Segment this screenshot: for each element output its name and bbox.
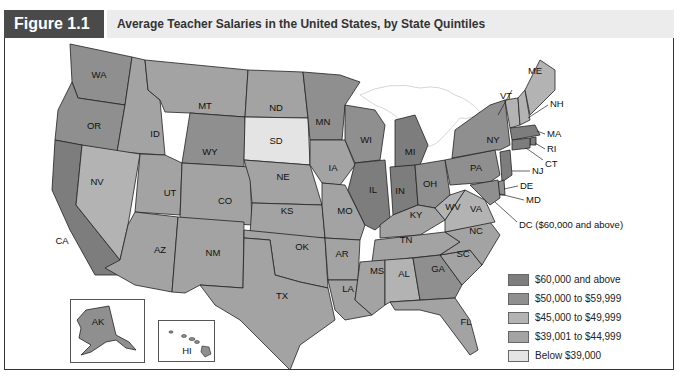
label-ME: ME <box>528 65 542 76</box>
state-NE <box>244 160 322 205</box>
legend: $60,000 and above $50,000 to $59,999 $45… <box>508 270 621 365</box>
state-AK <box>77 306 136 355</box>
label-IA: IA <box>329 162 339 173</box>
legend-label: $39,001 to $44,999 <box>535 331 621 342</box>
label-MA: MA <box>547 128 562 139</box>
label-IN: IN <box>395 185 405 196</box>
label-WA: WA <box>92 69 108 80</box>
callout-line-de <box>504 186 518 189</box>
label-AZ: AZ <box>154 244 166 255</box>
island <box>182 335 187 338</box>
state-NJ <box>500 150 512 182</box>
legend-item: $39,001 to $44,999 <box>508 327 621 346</box>
state-RI <box>530 137 536 145</box>
label-NY: NY <box>486 134 500 145</box>
label-DC: DC ($60,000 and above) <box>519 219 623 230</box>
label-ND: ND <box>269 102 283 113</box>
state-UT <box>135 154 182 215</box>
label-OK: OK <box>295 241 309 252</box>
label-FL: FL <box>460 316 471 327</box>
legend-item: $60,000 and above <box>508 270 621 289</box>
label-CO: CO <box>218 195 232 206</box>
label-MT: MT <box>198 100 212 111</box>
island <box>195 341 200 344</box>
label-LA: LA <box>342 283 354 294</box>
legend-item: $50,000 to $59,999 <box>508 289 621 308</box>
label-GA: GA <box>431 263 445 274</box>
label-NE: NE <box>276 171 289 182</box>
island <box>189 338 195 341</box>
label-NM: NM <box>206 247 221 258</box>
callout-line-ri <box>535 143 545 149</box>
legend-swatch <box>508 331 529 343</box>
state-WY <box>182 113 245 167</box>
label-KS: KS <box>281 205 294 216</box>
callout-line-ct <box>526 148 543 160</box>
alaska-map: AK <box>71 300 144 362</box>
label-IL: IL <box>369 184 377 195</box>
label-WV: WV <box>445 201 461 212</box>
hawaii-inset: HI <box>158 320 215 362</box>
state-AR <box>325 238 360 280</box>
label-KY: KY <box>410 209 423 220</box>
label-NC: NC <box>469 225 483 236</box>
label-MS: MS <box>370 265 384 276</box>
label-NV: NV <box>90 176 104 187</box>
callout-line-dc <box>495 202 517 222</box>
label-RI: RI <box>547 143 557 154</box>
island-big <box>201 346 211 357</box>
legend-label: $60,000 and above <box>535 274 621 285</box>
label-UT: UT <box>164 187 177 198</box>
label-PA: PA <box>470 162 483 173</box>
label-NH: NH <box>550 98 564 109</box>
label-WI: WI <box>360 134 372 145</box>
label-SC: SC <box>456 248 469 259</box>
label-WY: WY <box>202 146 218 157</box>
label-SD: SD <box>269 135 282 146</box>
label-CT: CT <box>545 158 558 169</box>
legend-label: Below $39,000 <box>535 350 601 361</box>
label-AK: AK <box>92 316 105 327</box>
state-CO <box>180 163 252 225</box>
label-NJ: NJ <box>532 165 544 176</box>
legend-label: $50,000 to $59,999 <box>535 293 621 304</box>
label-MD: MD <box>526 194 541 205</box>
legend-swatch <box>508 350 529 362</box>
label-MO: MO <box>337 205 352 216</box>
label-TX: TX <box>276 290 289 301</box>
legend-label: $45,000 to $49,999 <box>535 312 621 323</box>
legend-item: Below $39,000 <box>508 346 621 365</box>
label-ID: ID <box>150 128 160 139</box>
hawaii-map: HI <box>159 321 214 361</box>
alaska-inset: AK <box>70 299 145 363</box>
state-CT <box>512 138 530 150</box>
label-AR: AR <box>335 248 348 259</box>
legend-swatch <box>508 274 529 286</box>
label-VT: VT <box>500 90 512 101</box>
callout-line-md <box>500 194 524 200</box>
legend-swatch <box>508 293 529 305</box>
label-AL: AL <box>398 268 410 279</box>
label-MI: MI <box>405 146 416 157</box>
label-TN: TN <box>400 234 413 245</box>
legend-item: $45,000 to $49,999 <box>508 308 621 327</box>
label-CA: CA <box>55 235 69 246</box>
label-MN: MN <box>316 116 331 127</box>
label-DE: DE <box>520 180 533 191</box>
legend-swatch <box>508 312 529 324</box>
island <box>169 331 173 333</box>
label-VA: VA <box>470 203 483 214</box>
label-OH: OH <box>423 178 437 189</box>
label-OR: OR <box>87 120 101 131</box>
label-HI: HI <box>182 345 192 356</box>
